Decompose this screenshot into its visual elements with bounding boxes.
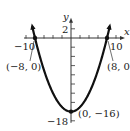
y-axis-label: y — [62, 11, 69, 22]
point-label-8-0: (8, 0) — [107, 61, 130, 72]
point-label-neg8-0: (−8, 0) — [6, 61, 41, 72]
curve-arrow-icon — [106, 24, 111, 30]
x-axis-label: x — [124, 26, 130, 37]
x-tick-label-10: 10 — [110, 41, 123, 52]
key-point — [33, 36, 37, 40]
parabola-chart: y x 2 −18 −10 10 (−8, 0) (8, 0) (0, −16) — [0, 0, 130, 131]
key-point — [69, 109, 73, 113]
curve-arrow-icon — [30, 24, 35, 30]
x-tick-label-neg10: −10 — [14, 41, 35, 52]
y-axis-arrow-icon — [69, 18, 73, 23]
key-point — [105, 36, 109, 40]
y-tick-label-2: 2 — [62, 24, 68, 35]
point-label-vertex: (0, −16) — [78, 108, 120, 119]
y-tick-label-neg18: −18 — [47, 116, 68, 127]
